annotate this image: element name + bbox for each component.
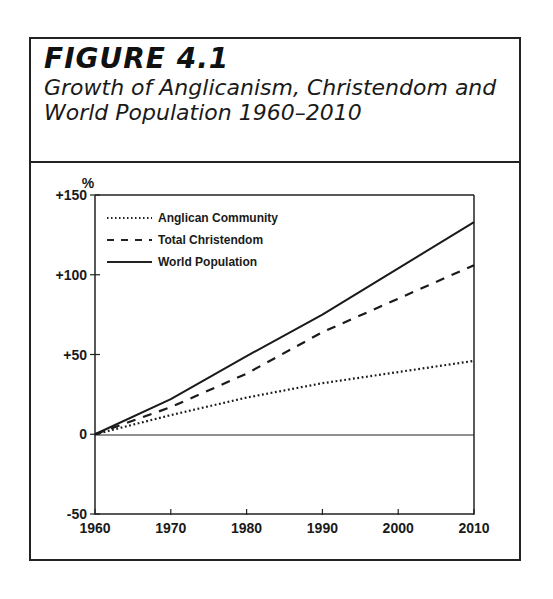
y-tick-label: +50	[63, 347, 87, 363]
x-tick-label: 1980	[231, 520, 262, 536]
plot-area	[95, 195, 474, 514]
x-tick-label: 2010	[458, 520, 489, 536]
data-series	[95, 222, 474, 434]
legend-label-world-population: World Population	[158, 255, 257, 269]
x-tick-label: 1970	[155, 520, 186, 536]
x-tick-label: 1960	[79, 520, 110, 536]
legend-label-anglican: Anglican Community	[158, 211, 278, 225]
series-line-world-population	[95, 222, 474, 434]
legend-label-christendom: Total Christendom	[158, 233, 263, 247]
line-chart: % +150+100+500-50 1960197019801990200020…	[0, 0, 553, 599]
x-tick-label: 2000	[383, 520, 414, 536]
y-tick-label: +150	[55, 187, 87, 203]
x-axis-ticks: 196019701980199020002010	[79, 509, 489, 536]
y-tick-label: +100	[55, 267, 87, 283]
legend: Anglican Community Total Christendom Wor…	[107, 211, 278, 269]
series-line-anglican-community	[95, 361, 474, 434]
y-tick-label: 0	[79, 426, 87, 442]
x-tick-label: 1990	[307, 520, 338, 536]
y-axis-ticks: +150+100+500-50	[55, 187, 100, 522]
